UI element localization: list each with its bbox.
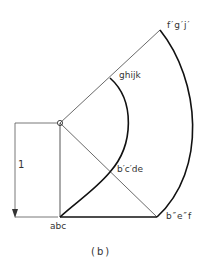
label-origin: abc [50, 222, 66, 231]
radial-line-top [60, 30, 160, 123]
label-outer-arc-top: f′g′j′ [167, 21, 191, 30]
outer-arc [157, 30, 193, 217]
label-outer-arc-bottom: b″e″f [166, 212, 192, 221]
label-mid-diagonal: b′c′de [117, 165, 143, 174]
diagram-canvas [0, 0, 210, 266]
figure-caption: (b) [91, 247, 111, 257]
inner-arc [60, 78, 128, 217]
label-inner-arc-top: ghijk [119, 71, 141, 80]
label-dimension: 1 [18, 160, 24, 170]
